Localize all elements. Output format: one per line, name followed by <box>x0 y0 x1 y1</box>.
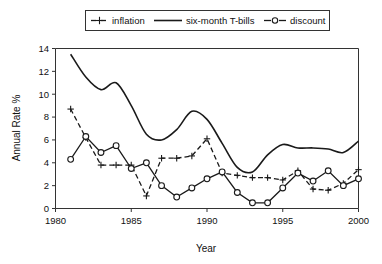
legend-label-six-month-t-bills: six-month T-bills <box>186 15 255 26</box>
x-tick-label: 2000 <box>348 215 369 226</box>
data-point-marker <box>280 185 286 191</box>
data-point-marker <box>144 160 150 166</box>
y-tick-label: 10 <box>38 89 49 100</box>
data-point-marker <box>250 200 256 206</box>
x-axis-title: Year <box>196 243 217 254</box>
data-point-marker <box>356 176 362 182</box>
y-tick-label: 12 <box>38 66 49 77</box>
data-point-marker <box>67 106 73 112</box>
y-tick-label: 2 <box>44 180 49 191</box>
data-point-marker <box>159 183 165 189</box>
data-point-marker <box>264 174 270 180</box>
legend-label-discount: discount <box>290 15 326 26</box>
data-point-marker <box>310 186 316 192</box>
data-point-marker <box>325 168 331 174</box>
data-point-marker <box>280 177 286 183</box>
x-tick-label: 1990 <box>196 215 217 226</box>
y-tick-label: 14 <box>38 43 49 54</box>
y-tick-label: 6 <box>44 134 49 145</box>
data-point-marker <box>158 155 164 161</box>
data-point-marker <box>234 190 240 196</box>
series-inflation <box>67 106 361 199</box>
data-point-marker <box>113 143 119 149</box>
data-point-marker <box>68 156 74 162</box>
data-point-marker <box>340 183 346 189</box>
chart-figure: inflation six-month T-bills discount 024… <box>0 0 382 264</box>
chart-legend: inflation six-month T-bills discount <box>86 11 330 31</box>
data-point-marker <box>143 193 149 199</box>
data-series-group <box>67 54 361 205</box>
data-point-marker <box>265 200 271 206</box>
series-discount <box>68 134 362 206</box>
data-point-marker <box>98 162 104 168</box>
x-tick-label: 1980 <box>45 215 66 226</box>
data-point-marker <box>83 134 89 140</box>
y-tick-label: 8 <box>44 111 49 122</box>
data-point-marker <box>234 172 240 178</box>
data-point-marker <box>98 150 104 156</box>
data-point-marker <box>174 194 180 200</box>
y-axis-title: Annual Rate % <box>11 95 22 162</box>
data-point-marker <box>310 178 316 184</box>
legend-label-inflation: inflation <box>112 15 145 26</box>
x-tick-label: 1995 <box>272 215 293 226</box>
y-axis: 02468101214 <box>38 43 55 214</box>
data-point-marker <box>189 185 195 191</box>
y-tick-label: 0 <box>44 203 49 214</box>
y-tick-label: 4 <box>44 157 49 168</box>
x-axis: 19801985199019952000 <box>45 209 369 226</box>
data-point-marker <box>204 176 210 182</box>
data-point-marker <box>113 162 119 168</box>
data-point-marker <box>249 174 255 180</box>
data-point-marker <box>128 166 134 172</box>
data-point-marker <box>295 170 301 176</box>
chart-canvas: inflation six-month T-bills discount 024… <box>0 0 382 264</box>
data-point-marker <box>219 169 225 175</box>
x-tick-label: 1985 <box>121 215 142 226</box>
data-point-marker <box>174 155 180 161</box>
data-point-marker <box>325 187 331 193</box>
